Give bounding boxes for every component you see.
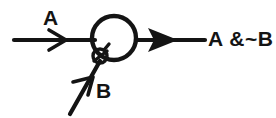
input-b-label: B — [96, 80, 111, 101]
inhibitory-connector-line — [104, 44, 109, 50]
diagram-canvas — [0, 0, 276, 118]
cell-body-circle — [92, 16, 136, 60]
input-a-label: A — [43, 7, 58, 28]
neuron-logic-diagram: A B A &~B — [0, 0, 276, 118]
output-label: A &~B — [208, 28, 273, 49]
